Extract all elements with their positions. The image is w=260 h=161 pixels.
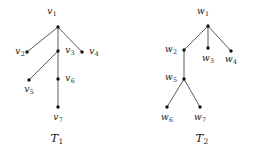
graph-node-v3[interactable] (56, 49, 59, 52)
node-label-w7: w7 (194, 112, 206, 123)
node-label-w4: w4 (225, 54, 237, 65)
edges-layer (27, 26, 231, 107)
node-label-v6: v6 (65, 73, 75, 84)
node-label-sub-v5: 5 (30, 88, 34, 95)
graph-node-v5[interactable] (27, 78, 30, 81)
node-label-w2: w2 (165, 44, 177, 55)
graph-node-v7[interactable] (56, 105, 59, 108)
graph-node-v2[interactable] (25, 50, 28, 53)
node-label-w3: w3 (202, 53, 214, 64)
tree-caption-T1: T1 (51, 131, 64, 146)
node-label-sub-w4: 4 (233, 58, 237, 65)
graph-edge (27, 27, 58, 52)
node-label-sub-v4: 4 (95, 50, 99, 57)
node-label-sub-w7: 7 (202, 116, 206, 123)
captions-layer: T1T2 (51, 131, 209, 146)
node-label-v4: v4 (89, 46, 99, 57)
graph-node-w5[interactable] (182, 77, 185, 80)
node-label-sub-w1: 1 (205, 10, 209, 17)
node-label-v1: v1 (47, 6, 57, 17)
graph-node-w2[interactable] (182, 48, 185, 51)
graph-node-w4[interactable] (229, 49, 232, 52)
graph-node-w7[interactable] (198, 105, 201, 108)
graph-canvas: v1v2v3v4v5v6v7w1w2w3w4w5w6w7 T1T2 (0, 0, 260, 161)
graph-edge (167, 79, 184, 107)
node-label-sub-w6: 6 (169, 116, 173, 123)
node-label-sub-v2: 2 (21, 50, 25, 57)
node-label-sub-w5: 5 (173, 76, 177, 83)
tree-caption-sub-T2: 2 (204, 137, 209, 146)
node-label-w1: w1 (197, 6, 209, 17)
graph-edge (184, 79, 200, 107)
node-label-w5: w5 (165, 72, 177, 83)
node-label-v3: v3 (65, 45, 75, 56)
node-label-sub-w2: 2 (173, 48, 177, 55)
graph-node-w1[interactable] (206, 24, 209, 27)
labels-layer: v1v2v3v4v5v6v7w1w2w3w4w5w6w7 (15, 6, 237, 123)
graph-edge (184, 26, 208, 50)
node-label-sub-v6: 6 (71, 77, 75, 84)
node-label-w6: w6 (161, 112, 173, 123)
node-label-v7: v7 (53, 112, 63, 123)
node-label-sub-v1: 1 (53, 10, 57, 17)
tree-figure: v1v2v3v4v5v6v7w1w2w3w4w5w6w7 T1T2 (0, 0, 260, 161)
nodes-layer (25, 24, 232, 108)
graph-edge (29, 51, 58, 80)
graph-node-v4[interactable] (80, 50, 83, 53)
node-label-sub-v3: 3 (71, 49, 75, 56)
node-label-sub-w3: 3 (210, 57, 214, 64)
tree-caption-T2: T2 (196, 131, 209, 146)
tree-caption-sub-T1: 1 (59, 137, 64, 146)
graph-node-v1[interactable] (56, 25, 59, 28)
graph-node-v6[interactable] (56, 77, 59, 80)
node-label-v5: v5 (24, 84, 34, 95)
graph-node-w3[interactable] (206, 46, 209, 49)
node-label-sub-v7: 7 (59, 116, 63, 123)
node-label-v2: v2 (15, 46, 25, 57)
graph-edge (208, 26, 231, 51)
graph-node-w6[interactable] (165, 105, 168, 108)
